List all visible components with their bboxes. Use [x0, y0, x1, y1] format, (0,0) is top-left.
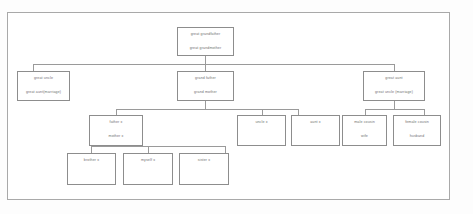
connector-drop-great-aunt — [394, 64, 395, 71]
connector-drop-great-uncle — [33, 64, 34, 71]
great-grandmother-label: great grandmother — [178, 47, 233, 51]
node-great-aunt[interactable]: great aunt great uncle (marriage) — [363, 71, 425, 101]
connector-ggp-stem — [205, 56, 206, 64]
great-uncle-marriage-label: great uncle (marriage) — [364, 91, 424, 95]
node-male-cousin[interactable]: male cousin wife — [342, 115, 387, 146]
connector-siblings-bus — [91, 146, 225, 147]
node-great-uncle[interactable]: great uncle great aunt(marriage) — [17, 71, 70, 101]
connector-gen2-bus — [33, 64, 394, 65]
myself-label: myself x — [124, 159, 172, 163]
aunt-label: aunt x — [292, 121, 339, 125]
connector-great-aunt-stem — [394, 101, 395, 109]
female-cousin-label: female cousin — [394, 121, 440, 125]
node-female-cousin[interactable]: female cousin husband — [393, 115, 441, 146]
sister-label: sister x — [180, 159, 228, 163]
great-uncle-label: great uncle — [18, 77, 69, 81]
great-aunt-marriage-label: great aunt(marriage) — [18, 91, 69, 95]
node-brother[interactable]: brother x — [67, 153, 116, 185]
mother-label: mother x — [90, 135, 142, 139]
grand-mother-label: grand mother — [178, 91, 233, 95]
grand-father-label: grand father — [178, 77, 233, 81]
connector-drop-myself — [148, 146, 149, 153]
connector-drop-brother — [91, 146, 92, 153]
uncle-label: uncle x — [238, 121, 285, 125]
connector-cousins-bus — [365, 109, 424, 110]
brother-label: brother x — [68, 159, 115, 163]
connector-drop-sister — [225, 146, 226, 153]
node-uncle[interactable]: uncle x — [237, 115, 286, 146]
diagram-frame: great grandfather great grandmother grea… — [7, 12, 450, 200]
male-cousin-label: male cousin — [343, 121, 386, 125]
node-myself[interactable]: myself x — [123, 153, 173, 185]
wife-label: wife — [343, 135, 386, 139]
connector-drop-grandparents — [205, 64, 206, 71]
great-grandfather-label: great grandfather — [178, 33, 233, 37]
husband-label: husband — [394, 135, 440, 139]
node-great-grandparents[interactable]: great grandfather great grandmother — [177, 27, 234, 56]
node-parents[interactable]: father x mother x — [89, 115, 143, 146]
node-aunt[interactable]: aunt x — [291, 115, 340, 146]
connector-grandparents-stem — [205, 101, 206, 109]
father-label: father x — [90, 121, 142, 125]
node-grandparents[interactable]: grand father grand mother — [177, 71, 234, 101]
node-sister[interactable]: sister x — [179, 153, 229, 185]
great-aunt-label: great aunt — [364, 77, 424, 81]
connector-gen3-bus — [116, 109, 298, 110]
